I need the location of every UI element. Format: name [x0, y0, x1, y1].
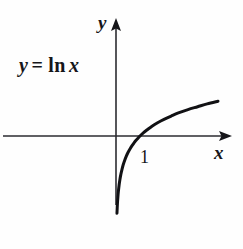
plot-canvas	[0, 0, 243, 249]
x-tick-label-1: 1	[140, 148, 149, 166]
log-curve	[117, 101, 218, 213]
y-axis-label: y	[98, 13, 106, 32]
x-axis-label: x	[214, 143, 224, 162]
equation-operator: =	[31, 54, 43, 76]
equation-argument: x	[69, 54, 80, 76]
equation-lhs: y	[19, 54, 28, 76]
ln-function-graph-figure: y x 1 y=lnx	[0, 0, 243, 249]
equation-function-name: ln	[48, 54, 66, 76]
equation-annotation: y=lnx	[19, 55, 79, 75]
